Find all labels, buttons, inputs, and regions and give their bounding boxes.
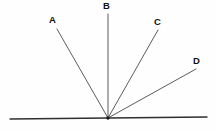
angle-figure-canvas: A B C D bbox=[0, 0, 217, 130]
vertex-point bbox=[106, 116, 109, 119]
ray-c bbox=[108, 30, 158, 118]
ray-a bbox=[57, 29, 108, 118]
ray-label-b: B bbox=[103, 1, 110, 11]
ray-d bbox=[108, 69, 196, 118]
ray-label-a: A bbox=[49, 15, 56, 25]
ray-label-c: C bbox=[154, 17, 161, 27]
geometry-diagram bbox=[0, 0, 217, 130]
ray-label-d: D bbox=[193, 56, 200, 66]
